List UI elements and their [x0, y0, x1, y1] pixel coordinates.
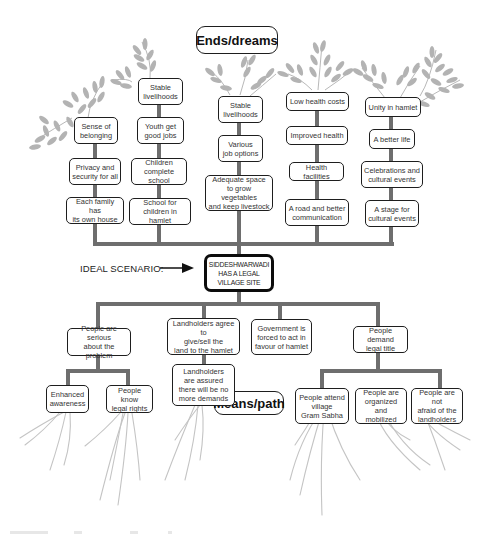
ends-dreams-title: Ends/dreams [196, 26, 278, 54]
cropped-caption-fragment [10, 531, 48, 534]
ends-horizontal-connector [93, 242, 394, 246]
ends-node-sense-of-belonging: Sense of belonging [74, 117, 118, 144]
means-node-landholders-assured: Landholders are assured there will be no… [172, 364, 235, 406]
means-horizontal-connector [96, 302, 380, 306]
ends-node-privacy-security: Privacy and security for all [69, 158, 121, 185]
ends-node-health-facilities: Health facilities [289, 162, 344, 181]
serious-child-2-drop [126, 369, 130, 385]
means-node-landholders-agree: Landholders agree to give/sell the land … [167, 318, 240, 355]
ends-node-adequate-space: Adequate space to grow vegetables and ke… [205, 175, 273, 211]
ends-node-low-health-costs: Low health costs [286, 92, 349, 111]
ends-node-improved-health: Improved health [286, 126, 348, 145]
means-node-know-legal-rights: People know legal rights [106, 385, 153, 413]
ends-node-unity-in-hamlet: Unity in hamlet [365, 97, 421, 117]
ends-node-children-complete-school: Children complete school [131, 158, 187, 185]
ideal-scenario-label: IDEAL SCENARIO: [80, 263, 164, 274]
ends-node-road-communication: A road and better communication [285, 199, 349, 226]
means-node-enhanced-awareness: Enhanced awareness [46, 385, 89, 413]
arrow-right-icon [160, 262, 196, 274]
serious-children-horizontal [66, 369, 130, 373]
solution-tree-diagram: Ends/dreams Means/path Sense of belongin… [0, 0, 495, 536]
central-goal-node: SIDDESHWARWADI HAS A LEGAL VILLAGE SITE [204, 254, 274, 292]
means-node-government-forced: Government is forced to act in favour of… [251, 319, 312, 355]
means-branch-4-connector [376, 302, 380, 328]
ends-node-school-for-children: School for children in hamlet [129, 198, 191, 225]
ends-node-stage-cultural-events: A stage for cultural events [365, 200, 419, 227]
means-node-attend-gram-sabha: People attend village Gram Sabha [295, 388, 349, 424]
serious-child-1-drop [66, 369, 70, 385]
ends-node-stable-livelihoods-1: Stable livelihoods [138, 78, 183, 105]
demand-child-1-drop [320, 369, 324, 389]
means-node-not-afraid: People are not afraid of the landholders [411, 388, 463, 424]
means-node-people-serious: People are serious about the problem [67, 328, 131, 356]
cropped-caption-fragment [130, 531, 138, 534]
ends-node-stable-livelihoods-2: Stable livelihoods [218, 96, 263, 123]
ends-node-better-life: A better life [369, 129, 415, 149]
ends-node-celebrations: Celebrations and cultural events [361, 161, 423, 188]
cropped-caption-fragment [74, 531, 82, 534]
cropped-caption-fragment [168, 531, 172, 534]
ends-node-each-family-house: Each family has its own house [66, 197, 124, 224]
means-node-people-demand-title: People demand legal title [353, 326, 408, 353]
ends-node-various-job-options: Various job options [218, 135, 263, 162]
ends-node-youth-good-jobs: Youth get good jobs [137, 117, 184, 144]
demand-child-3-drop [438, 369, 442, 389]
means-node-organized-mobilized: People are organized and mobilized [355, 388, 407, 424]
demand-children-horizontal [320, 369, 442, 373]
